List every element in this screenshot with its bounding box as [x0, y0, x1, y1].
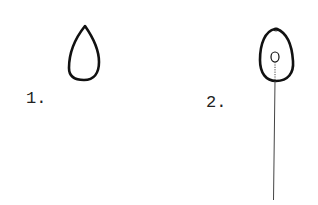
stalk-line: [274, 81, 276, 200]
teardrop-shape: [69, 26, 99, 80]
egg-shape: [260, 29, 293, 81]
figure-label-1: 1.: [26, 90, 46, 107]
figure-label-2: 2.: [206, 94, 226, 111]
diagram-canvas: [0, 0, 318, 205]
inner-oval: [271, 52, 279, 62]
